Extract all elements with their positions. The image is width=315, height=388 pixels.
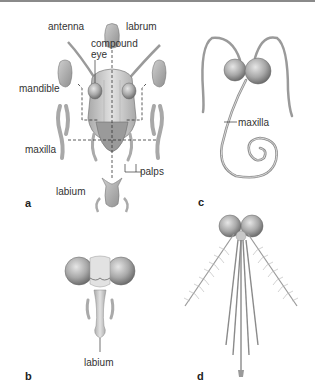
maxilla-left-icon <box>58 106 68 158</box>
maxilla-right-icon <box>152 106 162 158</box>
proboscis-icon <box>221 80 276 177</box>
panel-a-chewing-mouthparts <box>58 24 166 213</box>
label-maxilla-c: maxilla <box>238 117 269 128</box>
compound-eye-right-icon <box>122 83 136 99</box>
labium-a-icon <box>102 178 122 207</box>
label-palps: palps <box>140 166 164 177</box>
panel-d-piercing-sucking-mouthparts <box>184 215 298 377</box>
label-compound: compound <box>91 38 138 49</box>
label-eye: eye <box>91 49 107 60</box>
panel-label-b: b <box>25 370 32 382</box>
panel-b-sponging-mouthparts <box>65 256 135 352</box>
panel-label-d: d <box>197 370 204 382</box>
panel-label-c: c <box>198 196 204 208</box>
panel-c-siphoning-mouthparts <box>202 37 292 177</box>
label-labrum: labrum <box>126 21 157 32</box>
insect-mouthparts-figure <box>0 0 315 388</box>
label-mandible: mandible <box>19 83 60 94</box>
stylets-icon <box>226 240 258 370</box>
label-labium-b: labium <box>84 357 113 368</box>
labium-b-icon <box>94 290 106 338</box>
compound-eye-left-icon <box>88 83 102 99</box>
label-labium-a: labium <box>56 186 85 197</box>
label-antenna: antenna <box>48 21 84 32</box>
mandible-left-icon <box>58 60 72 87</box>
label-maxilla-a: maxilla <box>25 144 56 155</box>
panel-label-a: a <box>25 197 31 209</box>
mandible-right-icon <box>152 60 166 87</box>
